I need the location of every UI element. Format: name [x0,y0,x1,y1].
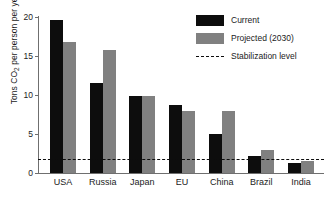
bar [301,161,314,173]
y-axis-tick-mark [35,173,38,174]
bar-group [169,105,195,173]
bar-group [50,20,76,173]
y-axis-tick-label: 5 [15,130,33,139]
bar [50,20,63,173]
legend: CurrentProjected (2030)Stabilization lev… [196,14,297,62]
x-axis-line [38,173,324,174]
bar-chart: Tons CO2 per person per year 05101520 US… [0,0,333,198]
y-axis-tick-mark [35,134,38,135]
y-axis-tick-label: 15 [15,52,33,61]
legend-item: Current [196,14,297,26]
x-axis-tick-label: USA [54,177,73,187]
y-axis-line [38,16,39,174]
legend-item-label: Stabilization level [231,52,297,61]
bar-group [248,150,274,173]
legend-swatch-icon [196,15,224,26]
legend-item-label: Projected (2030) [231,34,294,43]
legend-dash-icon [196,51,224,62]
y-axis-label-subscript: 2 [13,67,20,71]
stabilization-reference-line [38,159,324,160]
y-axis-tick-label: 20 [15,13,33,22]
y-axis-tick-mark [35,17,38,18]
legend-swatch-icon [196,33,224,44]
bar [63,42,76,173]
legend-item: Stabilization level [196,50,297,62]
bar-group [209,111,235,173]
x-axis-tick-label: Brazil [250,177,273,187]
legend-item-label: Current [231,16,259,25]
x-axis-tick-label: China [210,177,234,187]
y-axis-tick-mark [35,95,38,96]
x-axis-tick-label: India [291,177,311,187]
bar [169,105,182,173]
x-axis-tick-label: Russia [89,177,117,187]
x-axis-tick-label: EU [176,177,189,187]
bar [222,111,235,173]
bar-group [288,161,314,173]
y-axis-label-prefix: Tons CO [9,71,19,104]
bar [261,150,274,173]
bar [182,111,195,173]
bar [209,134,222,173]
x-axis-tick-label: Japan [130,177,155,187]
y-axis-tick-label: 0 [15,169,33,178]
bar [142,96,155,173]
legend-item: Projected (2030) [196,32,297,44]
bar-group [90,50,116,173]
bar [103,50,116,173]
bar [129,96,142,173]
y-axis-tick-label: 10 [15,91,33,100]
bar-group [129,96,155,173]
bar [288,163,301,173]
y-axis-tick-mark [35,56,38,57]
